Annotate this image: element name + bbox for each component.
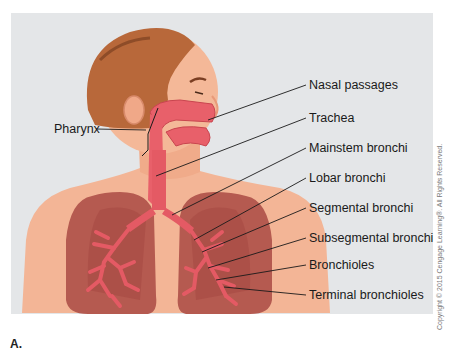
label-bronchioles: Bronchioles	[309, 258, 374, 272]
trachea-shape-lower	[152, 150, 166, 210]
label-terminal-bronchioles: Terminal bronchioles	[309, 288, 424, 302]
label-subsegmental-bronchi: Subsegmental bronchi	[309, 231, 433, 245]
figure-letter: A.	[10, 337, 22, 351]
leader-line-nasal-passages	[208, 85, 306, 120]
label-pharynx: Pharynx	[54, 122, 100, 136]
label-mainstem-bronchi: Mainstem bronchi	[309, 141, 408, 155]
label-lobar-bronchi: Lobar bronchi	[309, 171, 385, 185]
label-segmental-bronchi: Segmental bronchi	[309, 201, 413, 215]
label-trachea: Trachea	[309, 111, 354, 125]
ear-shape	[124, 96, 144, 124]
label-nasal-passages: Nasal passages	[309, 78, 398, 92]
copyright-notice: Copyright © 2015 Cengage Learning®. All …	[436, 144, 443, 330]
